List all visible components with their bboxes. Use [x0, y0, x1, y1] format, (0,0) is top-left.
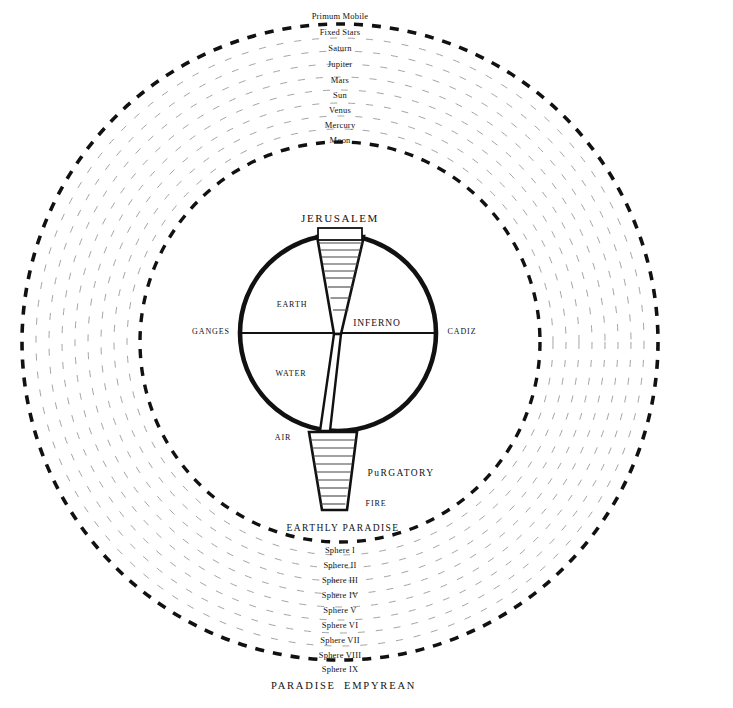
diagram-vector-layer	[0, 0, 733, 708]
page-artifact-speck	[719, 520, 725, 534]
jerusalem-marker	[318, 228, 362, 240]
earth-globe-group	[238, 228, 438, 431]
mount-purgatory-group	[309, 432, 357, 510]
cosmology-diagram-canvas: Primum Mobile Fixed Stars Saturn Jupiter…	[0, 0, 733, 708]
purgatory-mountain-outline	[309, 432, 357, 510]
